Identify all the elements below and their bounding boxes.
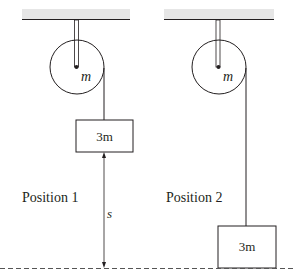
pulley-diagram: m 3m Position 1 s m 3m Position 2 (0, 0, 296, 278)
pulley-axle-left (75, 65, 79, 69)
position-2-setup: m 3m Position 2 (164, 9, 276, 268)
pulley-axle-rod-left (75, 20, 79, 67)
position-1-label: Position 1 (22, 190, 78, 205)
arrowhead-down-icon (102, 262, 106, 268)
position-2-label: Position 2 (166, 190, 222, 205)
distance-label: s (107, 206, 112, 221)
block-label-left: 3m (96, 129, 113, 144)
pulley-mass-label-left: m (81, 69, 91, 84)
ceiling-right (164, 9, 274, 19)
block-label-right: 3m (239, 239, 256, 254)
ceiling-left (22, 9, 130, 19)
pulley-axle-right (217, 65, 221, 69)
arrowhead-up-icon (102, 152, 106, 158)
pulley-mass-label-right: m (223, 69, 233, 84)
pulley-axle-rod-right (216, 20, 220, 67)
position-1-setup: m 3m Position 1 s (22, 9, 133, 268)
